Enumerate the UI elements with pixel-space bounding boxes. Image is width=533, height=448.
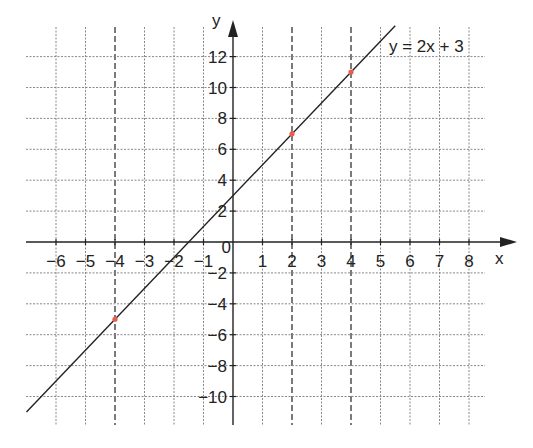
axes: [26, 20, 517, 425]
x-tick-label: 2: [287, 252, 296, 271]
y-tick-label: −8: [208, 357, 227, 376]
y-tick-label: −2: [208, 264, 227, 283]
grid-lines: [26, 27, 485, 425]
y-tick-label: 12: [208, 48, 227, 67]
x-tick-label: −5: [76, 252, 95, 271]
y-tick-label: −6: [208, 326, 227, 345]
x-tick-label: 8: [464, 252, 473, 271]
y-axis-label: y: [212, 11, 221, 30]
equation-label: y = 2x + 3: [389, 37, 464, 56]
x-tick-label: −3: [135, 252, 154, 271]
data-point: [348, 69, 353, 74]
x-tick-label: 4: [346, 252, 355, 271]
y-tick-label: 8: [218, 109, 227, 128]
x-tick-label: 6: [405, 252, 414, 271]
x-axis-arrow-icon: [500, 237, 517, 247]
x-tick-label: 0: [222, 238, 231, 257]
x-tick-label: −2: [164, 252, 183, 271]
x-tick-label: 5: [376, 252, 385, 271]
y-tick-label: −4: [208, 295, 227, 314]
x-tick-label: 7: [435, 252, 444, 271]
y-tick-label: 4: [218, 171, 227, 190]
x-axis-label: x: [495, 249, 504, 268]
x-tick-label: 1: [258, 252, 267, 271]
y-axis-arrow-icon: [228, 20, 238, 37]
y-tick-label: 6: [218, 140, 227, 159]
data-point: [112, 317, 117, 322]
x-tick-label: −6: [46, 252, 65, 271]
data-point: [289, 131, 294, 136]
y-tick-label: −10: [198, 388, 227, 407]
x-tick-label: 3: [317, 252, 326, 271]
x-tick-label: −4: [105, 252, 124, 271]
y-tick-label: 2: [218, 202, 227, 221]
coordinate-plot: −6−5−4−3−2−1012345678−10−8−6−4−224681012…: [0, 0, 533, 448]
y-tick-label: 10: [208, 79, 227, 98]
